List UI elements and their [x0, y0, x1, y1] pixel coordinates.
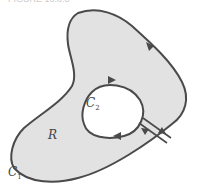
c2-letter: C — [86, 96, 95, 110]
c1-subscript: 1 — [17, 173, 21, 181]
label-c2: C2 — [86, 96, 100, 112]
region-letter: R — [48, 128, 57, 142]
c2-subscript: 2 — [95, 104, 99, 112]
label-region-r: R — [48, 128, 57, 142]
c1-letter: C — [8, 165, 17, 179]
label-c1: C1 — [8, 165, 22, 181]
